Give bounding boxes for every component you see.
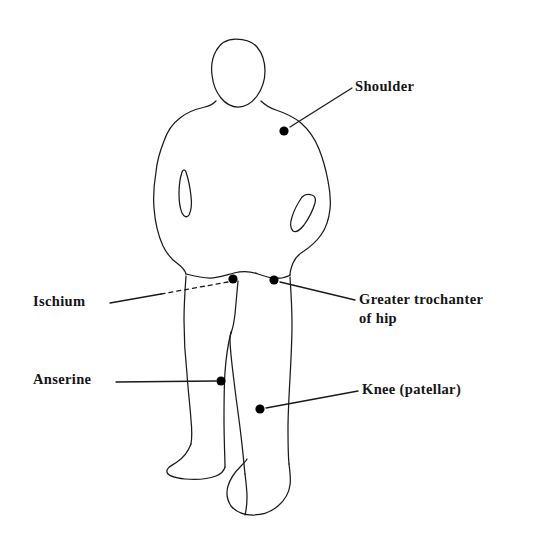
leader-shoulder [290, 88, 352, 127]
body-outline [154, 39, 331, 515]
leader-ischium-dashed [161, 282, 228, 294]
label-ischium: Ischium [33, 292, 85, 311]
leader-knee [266, 391, 358, 408]
label-greater-trochanter: Greater trochanterof hip [359, 290, 483, 327]
marker-greater-trochanter [269, 275, 278, 284]
marker-shoulder [279, 126, 288, 135]
leader-lines [110, 88, 358, 408]
right-leg-inner [245, 474, 247, 515]
landmark-markers [216, 126, 288, 413]
torso-right-outline [261, 101, 330, 275]
left-arm-gap [179, 170, 191, 217]
head-outline [212, 39, 265, 107]
label-shoulder: Shoulder [355, 77, 414, 96]
right-arm-gap [291, 194, 316, 231]
right-foot [227, 459, 290, 515]
anatomical-landmark-diagram: Shoulder Greater trochanterof hip Ischiu… [0, 0, 549, 547]
label-knee-patellar: Knee (patellar) [362, 380, 461, 399]
marker-anserine [216, 376, 225, 385]
inner-leg-line [230, 281, 245, 474]
left-leg-outer [184, 276, 192, 444]
leader-anserine [116, 381, 216, 382]
diagram-canvas [0, 0, 549, 547]
left-foot [167, 444, 225, 479]
marker-knee-patellar [255, 404, 264, 413]
right-leg-outer [288, 277, 292, 464]
left-leg-inner [224, 332, 231, 467]
label-greater-trochanter-line1: Greater trochanter [359, 291, 483, 307]
label-greater-trochanter-line2: of hip [359, 310, 397, 326]
leader-ischium-solid [110, 294, 161, 303]
marker-ischium [228, 274, 237, 283]
torso-left-outline [154, 101, 216, 274]
label-anserine: Anserine [33, 370, 91, 389]
